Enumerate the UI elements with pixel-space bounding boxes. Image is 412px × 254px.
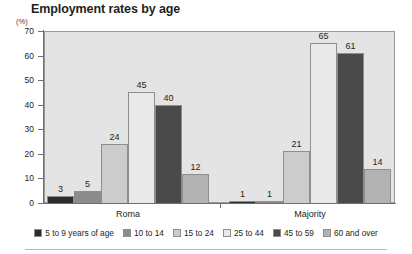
- y-axis-tick: [38, 80, 43, 81]
- y-axis-tick-label: 0: [0, 198, 34, 208]
- legend-swatch-icon: [323, 229, 331, 237]
- y-axis-tick-label: 70: [0, 26, 34, 36]
- bar-value-label: 5: [85, 179, 90, 189]
- y-axis-tick: [38, 154, 43, 155]
- y-axis-tick: [38, 56, 43, 57]
- legend-label: 45 to 59: [284, 228, 314, 238]
- bar: [74, 191, 101, 203]
- x-axis-group-label: Majority: [294, 209, 326, 219]
- y-axis-tick: [38, 129, 43, 130]
- bar: [256, 201, 283, 203]
- legend-label: 25 to 44: [234, 228, 264, 238]
- y-axis-tick: [38, 31, 43, 32]
- y-axis-unit-label: (%): [16, 17, 28, 26]
- bar-value-label: 65: [318, 31, 328, 41]
- bar-value-label: 14: [372, 157, 382, 167]
- bar-value-label: 1: [267, 189, 272, 199]
- legend-item[interactable]: 5 to 9 years of age: [34, 228, 114, 238]
- bar-value-label: 24: [109, 132, 119, 142]
- y-axis-tick: [38, 203, 43, 204]
- legend-swatch-icon: [123, 229, 131, 237]
- y-axis-tick-label: 40: [0, 100, 34, 110]
- y-axis-tick-label: 30: [0, 124, 34, 134]
- bar: [128, 92, 155, 203]
- bar: [283, 151, 310, 203]
- footer-divider: [25, 249, 387, 250]
- bar-value-label: 40: [163, 93, 173, 103]
- legend-item[interactable]: 25 to 44: [223, 228, 264, 238]
- y-axis-tick-label: 20: [0, 149, 34, 159]
- legend-label: 10 to 14: [134, 228, 164, 238]
- legend-label: 60 and over: [334, 228, 378, 238]
- bar-value-label: 61: [345, 41, 355, 51]
- bar: [47, 196, 74, 203]
- bar-value-label: 21: [291, 139, 301, 149]
- legend-item[interactable]: 15 to 24: [173, 228, 214, 238]
- bar-value-label: 12: [190, 162, 200, 172]
- y-axis-tick: [38, 105, 43, 106]
- bar: [155, 105, 182, 203]
- page-title: Employment rates by age: [31, 2, 180, 16]
- legend-item[interactable]: 45 to 59: [273, 228, 314, 238]
- y-axis-line: [43, 30, 44, 204]
- chart-legend: 5 to 9 years of age10 to 1415 to 2425 to…: [0, 228, 412, 238]
- legend-label: 15 to 24: [184, 228, 214, 238]
- legend-swatch-icon: [223, 229, 231, 237]
- x-axis-tick: [220, 204, 221, 208]
- y-axis-tick-label: 10: [0, 173, 34, 183]
- legend-item[interactable]: 60 and over: [323, 228, 378, 238]
- legend-swatch-icon: [173, 229, 181, 237]
- bar-value-label: 45: [136, 80, 146, 90]
- bar: [310, 43, 337, 203]
- bar: [229, 201, 256, 203]
- legend-label: 5 to 9 years of age: [45, 228, 114, 238]
- legend-swatch-icon: [34, 229, 42, 237]
- legend-swatch-icon: [273, 229, 281, 237]
- bar-value-label: 3: [58, 184, 63, 194]
- bar: [364, 169, 391, 203]
- x-axis-group-label: Roma: [116, 209, 140, 219]
- bar: [182, 174, 209, 203]
- y-axis-tick: [38, 178, 43, 179]
- bar: [337, 53, 364, 203]
- bar-value-label: 1: [240, 189, 245, 199]
- y-axis-tick-label: 60: [0, 51, 34, 61]
- bar: [101, 144, 128, 203]
- legend-item[interactable]: 10 to 14: [123, 228, 164, 238]
- y-axis-tick-label: 50: [0, 75, 34, 85]
